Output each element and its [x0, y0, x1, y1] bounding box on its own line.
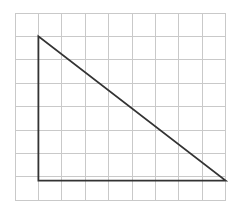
geometry-figure	[0, 0, 236, 213]
